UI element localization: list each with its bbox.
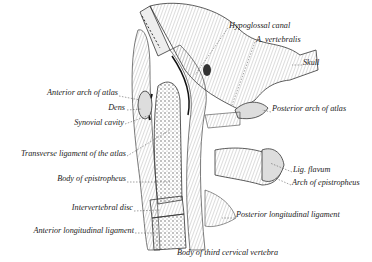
label-posterior-arch-of-atlas: Posterior arch of atlas	[272, 105, 346, 113]
label-a-vertebralis: A. vertebralis	[256, 36, 301, 44]
label-posterior-longitudinal-ligament: Posterior longitudinal ligament	[236, 211, 340, 219]
label-body-of-epistropheus: Body of epistropheus	[57, 175, 126, 183]
label-body-of-third-cervical-vertebra: Body of third cervical vertebra	[177, 249, 278, 257]
label-intervertebral-disc: Intervertebral disc	[72, 204, 133, 212]
illustration-drawing	[0, 0, 372, 262]
label-arch-of-epistropheus: Arch of epistropheus	[292, 179, 360, 187]
label-transverse-ligament-of-the-atlas: Transverse ligament of the atlas	[21, 150, 126, 158]
anatomical-figure: Anterior arch of atlas Dens Synovial cav…	[0, 0, 372, 262]
label-lig-flavum: Lig. flavum	[293, 166, 330, 174]
label-anterior-longitudinal-ligament: Anterior longitudinal ligament	[33, 227, 134, 235]
label-synovial-cavity: Synovial cavity	[74, 119, 124, 127]
label-hypoglossal-canal: Hypoglossal canal	[229, 22, 290, 30]
label-dens: Dens	[108, 104, 125, 112]
label-skull: Skull	[303, 59, 319, 67]
label-anterior-arch-of-atlas: Anterior arch of atlas	[47, 89, 118, 97]
